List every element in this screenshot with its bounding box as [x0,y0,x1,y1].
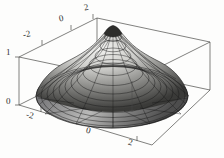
tick-label-z-0: 0 [6,97,11,106]
plot-canvas [0,0,224,158]
tick-label-back-x-0: 0 [58,14,64,24]
tick-label-back-x-neg2: -2 [22,29,31,39]
surface-dome [36,26,188,112]
z-axis-ticks [15,57,19,105]
surface-plot-figure: -2 0 2 1 0 -2 0 2 [0,0,224,158]
back-axis-ticks [42,14,93,45]
surface-mesh [36,26,189,129]
tick-label-z-1: 1 [6,48,11,57]
surface-apex-cap [104,26,122,38]
